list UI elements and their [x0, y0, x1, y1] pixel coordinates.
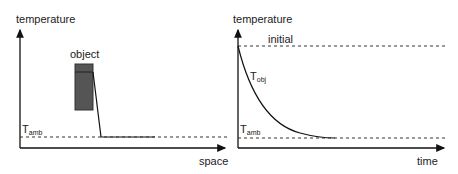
ambient-label: Tamb: [240, 123, 260, 136]
cooling-curve: [238, 46, 335, 138]
object-temp-label: Tobj: [250, 70, 267, 84]
y-axis-label: temperature: [233, 13, 292, 25]
object-label: object: [70, 48, 99, 60]
space-panel: temperature space object Tamb: [16, 13, 229, 167]
object-block: [75, 64, 93, 110]
diagram-canvas: temperature space object Tamb temperatur…: [0, 0, 458, 174]
x-axis-label: time: [417, 155, 438, 167]
initial-label: initial: [268, 33, 293, 45]
ambient-label: Tamb: [22, 123, 42, 136]
time-panel: temperature time initial Tobj Tamb: [233, 13, 447, 167]
x-axis-label: space: [199, 155, 228, 167]
y-axis-label: temperature: [16, 13, 75, 25]
temperature-drop-line: [93, 72, 101, 137]
